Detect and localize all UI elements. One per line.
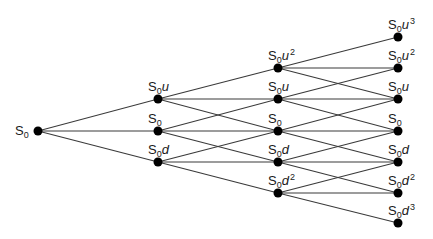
node-label: S0u2 <box>388 47 415 65</box>
node-label: S0u <box>148 79 169 96</box>
tree-nodes <box>34 33 403 228</box>
node-label: S0d <box>388 142 410 159</box>
tree-edge <box>278 37 398 68</box>
tree-labels: S0S0uS0S0dS0u2S0uS0S0dS0d2S0u3S0u2S0uS0S… <box>15 16 415 220</box>
node-label: S0 <box>388 111 402 128</box>
trinomial-tree-diagram: S0S0uS0S0dS0u2S0uS0S0dS0d2S0u3S0u2S0uS0S… <box>0 0 433 239</box>
node-label: S0u <box>388 79 409 96</box>
node-label: S0u <box>268 79 289 96</box>
node-label: S0d3 <box>388 202 415 220</box>
tree-node <box>34 127 43 136</box>
node-label: S0 <box>148 111 162 128</box>
node-label: S0u2 <box>268 47 295 65</box>
tree-edge <box>38 131 158 162</box>
node-label: S0d2 <box>388 172 415 190</box>
node-label: S0d2 <box>268 172 295 190</box>
node-label: S0 <box>15 123 29 140</box>
node-label: S0u3 <box>388 16 415 34</box>
tree-edges <box>38 37 398 223</box>
tree-edge <box>158 68 278 99</box>
tree-edge <box>158 162 278 193</box>
tree-edge <box>38 99 158 131</box>
node-label: S0d <box>268 142 290 159</box>
node-label: S0 <box>268 111 282 128</box>
tree-edge <box>278 193 398 223</box>
node-label: S0d <box>148 142 170 159</box>
